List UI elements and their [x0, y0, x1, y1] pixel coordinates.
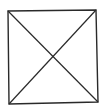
x-box-diagram: [0, 0, 101, 107]
diagonal-top-right-to-bottom-left: [9, 10, 96, 104]
